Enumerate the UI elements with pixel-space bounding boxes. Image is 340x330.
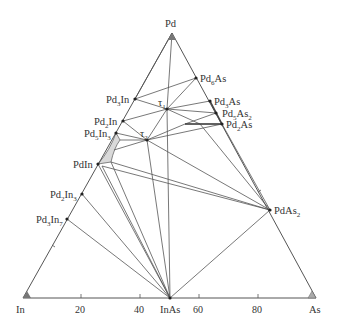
label-pd3in: Pd3In (106, 94, 130, 108)
axis-tick-40: 40 (134, 304, 144, 315)
axis-tick-20: 20 (75, 304, 85, 315)
in-vertex-marker (23, 291, 31, 298)
label-tau1: τ1 (158, 97, 166, 111)
axis-tick-80: 80 (252, 304, 262, 315)
label-pd6as: Pd6As (200, 73, 226, 87)
vertex-label-in: In (16, 304, 25, 315)
label-pd2as: Pd2As (226, 119, 252, 133)
vertex-label-as: As (309, 304, 321, 315)
label-pdin: PdIn (73, 159, 94, 170)
label-pd5in3: Pd5In3 (84, 128, 111, 142)
label-pd3in7: Pd3In7 (36, 214, 63, 228)
pd-vertex-marker (168, 33, 176, 40)
axis-tick-60: 60 (193, 304, 203, 315)
ternary-phase-diagram: Pd In As 20 40 60 80 Pd6As Pd3As Pd5As2 … (0, 0, 340, 330)
as-vertex-marker (308, 291, 316, 298)
label-tau2: τ2 (140, 128, 148, 142)
label-inas: InAs (160, 304, 180, 315)
label-pdas2: PdAs2 (274, 205, 301, 219)
vertex-label-pd: Pd (165, 18, 177, 29)
label-pd2in3: Pd2In3 (50, 189, 77, 203)
